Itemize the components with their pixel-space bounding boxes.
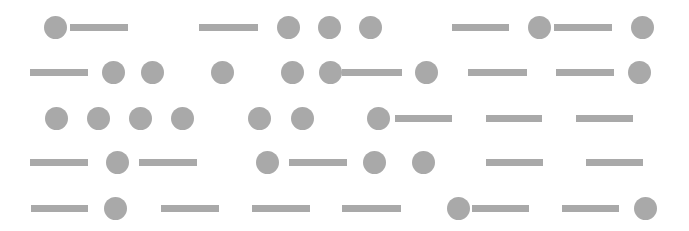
dot-icon xyxy=(412,151,435,174)
dot-icon xyxy=(319,61,342,84)
dash-icon xyxy=(452,24,509,31)
dot-icon xyxy=(141,61,164,84)
dash-icon xyxy=(395,115,452,122)
dot-icon xyxy=(171,107,194,130)
dot-icon xyxy=(628,61,651,84)
dash-icon xyxy=(252,205,310,212)
dash-icon xyxy=(139,159,197,166)
dot-icon xyxy=(102,61,125,84)
dot-icon xyxy=(415,61,438,84)
dash-icon xyxy=(199,24,258,31)
dash-icon xyxy=(289,159,347,166)
dot-icon xyxy=(211,61,234,84)
dot-icon xyxy=(634,197,657,220)
dot-icon xyxy=(291,107,314,130)
dash-icon xyxy=(486,159,543,166)
dot-icon xyxy=(104,197,127,220)
dash-icon xyxy=(31,205,88,212)
dot-icon xyxy=(528,16,551,39)
dash-icon xyxy=(70,24,128,31)
dash-icon xyxy=(576,115,633,122)
dash-icon xyxy=(161,205,219,212)
dot-icon xyxy=(45,107,68,130)
dash-icon xyxy=(468,69,527,76)
dot-icon xyxy=(277,16,300,39)
dot-icon xyxy=(631,16,654,39)
dot-icon xyxy=(129,107,152,130)
dash-icon xyxy=(562,205,619,212)
dot-icon xyxy=(248,107,271,130)
dot-icon xyxy=(106,151,129,174)
dash-icon xyxy=(586,159,643,166)
dot-icon xyxy=(281,61,304,84)
dot-icon xyxy=(447,197,470,220)
dot-icon xyxy=(318,16,341,39)
dot-dash-pattern xyxy=(0,0,689,231)
dash-icon xyxy=(342,205,401,212)
dash-icon xyxy=(30,159,88,166)
dot-icon xyxy=(87,107,110,130)
dash-icon xyxy=(556,69,614,76)
dot-icon xyxy=(44,16,67,39)
dot-icon xyxy=(256,151,279,174)
dash-icon xyxy=(472,205,529,212)
dot-icon xyxy=(359,16,382,39)
dash-icon xyxy=(30,69,88,76)
dot-icon xyxy=(363,151,386,174)
dash-icon xyxy=(554,24,612,31)
dash-icon xyxy=(342,69,402,76)
dash-icon xyxy=(486,115,542,122)
dot-icon xyxy=(367,107,390,130)
